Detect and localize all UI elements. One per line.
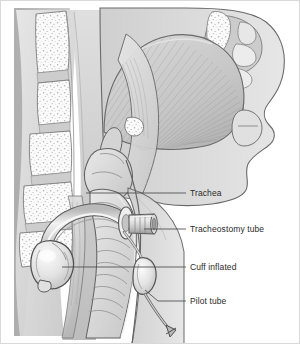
lips [232, 110, 262, 146]
vertebra-c4 [29, 131, 71, 176]
anatomical-illustration [0, 0, 300, 344]
label-pilot-tube: Pilot tube [190, 296, 226, 306]
lips-and-vestibule [232, 110, 262, 146]
vertebra-c2 [36, 11, 69, 73]
figure-root: Trachea Tracheostomy tube Cuff inflated … [0, 0, 300, 344]
label-tracheostomy-tube: Tracheostomy tube [190, 224, 264, 234]
hyoid-bone [125, 117, 144, 136]
vertebra-c3 [37, 80, 70, 125]
label-trachea: Trachea [190, 188, 222, 198]
tube-connector-hub [129, 214, 157, 234]
label-cuff-inflated: Cuff inflated [190, 262, 237, 272]
